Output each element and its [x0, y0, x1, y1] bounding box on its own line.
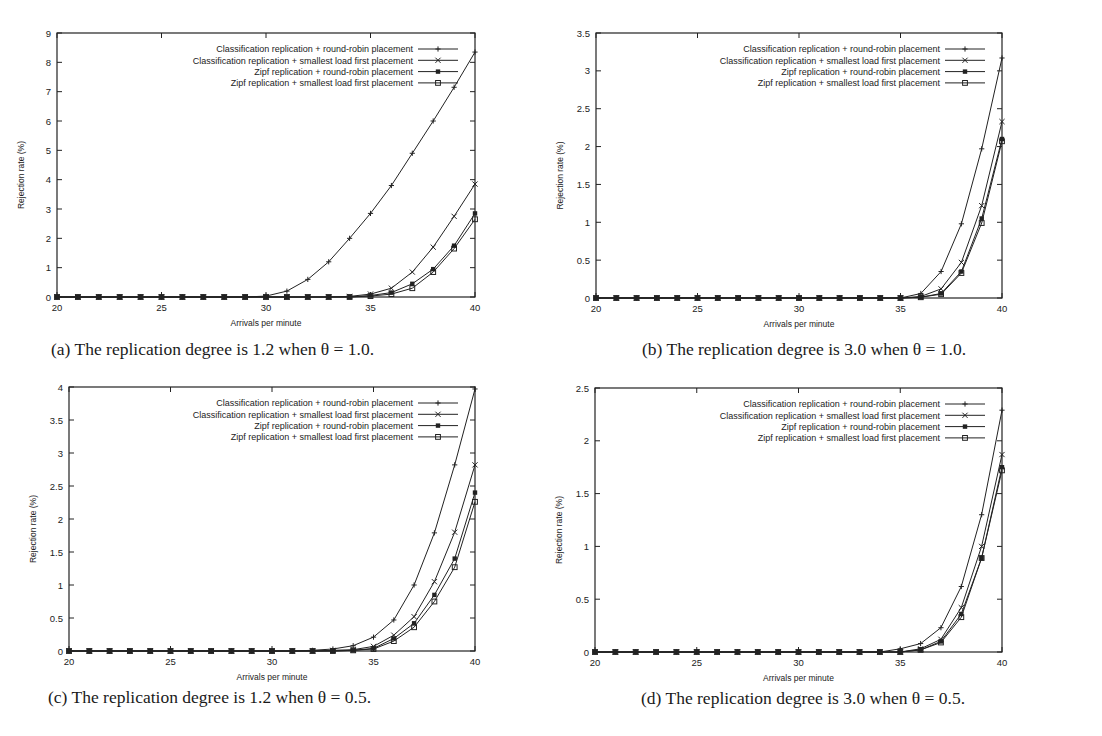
x-tick-label: 25 — [156, 302, 167, 313]
legend-label: Zipf replication + smallest load first p… — [758, 433, 941, 443]
legend-label: Zipf replication + round-robin placement — [254, 67, 413, 77]
y-tick-label: 1 — [584, 541, 589, 552]
y-tick-label: 1.5 — [577, 179, 590, 190]
y-tick-label: 8 — [46, 57, 51, 68]
y-tick-label: 3.5 — [577, 28, 590, 39]
y-axis-label: Rejection rate (%) — [16, 141, 26, 209]
series-line — [67, 499, 478, 653]
series-line — [593, 119, 1004, 301]
y-axis-label: Rejection rate (%) — [28, 495, 38, 563]
y-tick-label: 0 — [58, 646, 63, 657]
x-tick-label: 35 — [895, 303, 906, 314]
series-line — [67, 490, 477, 653]
x-tick-label: 30 — [267, 656, 278, 667]
legend-label: Classification replication + round-robin… — [743, 44, 940, 54]
series-line — [594, 139, 1005, 301]
y-tick-label: 2 — [585, 141, 590, 152]
legend-label: Classification replication + round-robin… — [216, 44, 413, 54]
y-tick-label: 1 — [46, 262, 51, 273]
x-tick-label: 40 — [997, 303, 1008, 314]
chart-panel-b: 00.511.522.533.52025303540Arrivals per m… — [551, 0, 1102, 360]
legend-label: Zipf replication + smallest load first p… — [231, 432, 414, 442]
y-tick-label: 1 — [585, 217, 590, 228]
x-axis-label: Arrivals per minute — [231, 318, 302, 328]
x-tick-label: 20 — [590, 657, 601, 668]
x-tick-label: 20 — [64, 656, 75, 667]
y-tick-label: 9 — [46, 28, 51, 39]
x-axis-label: Arrivals per minute — [763, 673, 834, 683]
y-tick-label: 1.5 — [576, 488, 589, 499]
x-tick-label: 25 — [692, 303, 703, 314]
legend-label: Zipf replication + smallest load first p… — [758, 78, 941, 88]
legend-label: Zipf replication + round-robin placement — [781, 67, 940, 77]
x-axis-label: Arrivals per minute — [764, 319, 835, 329]
series-line — [593, 465, 1004, 654]
y-tick-label: 4 — [58, 382, 63, 393]
chart-c-caption: (c) The replication degree is 1.2 when θ… — [48, 687, 371, 708]
chart-panel-c: 00.511.522.533.542025303540Arrivals per … — [0, 360, 551, 728]
cut-off-figure-caption — [0, 728, 1102, 736]
series-line — [594, 137, 1004, 300]
legend-label: Zipf replication + smallest load first p… — [231, 78, 414, 88]
legend-label: Classification replication + smallest lo… — [193, 56, 414, 66]
series-line — [593, 468, 1005, 654]
x-tick-label: 35 — [365, 302, 376, 313]
x-tick-label: 25 — [165, 656, 176, 667]
x-tick-label: 35 — [368, 656, 379, 667]
series-line — [593, 55, 1004, 300]
y-tick-label: 0 — [584, 647, 589, 658]
y-axis-label: Rejection rate (%) — [555, 141, 565, 209]
chart-legend: Classification replication + round-robin… — [720, 44, 985, 88]
y-tick-label: 1 — [58, 580, 63, 591]
legend-label: Classification replication + smallest lo… — [193, 410, 414, 420]
chart-legend: Classification replication + round-robin… — [193, 398, 458, 442]
y-tick-label: 3 — [58, 448, 63, 459]
x-tick-label: 40 — [470, 302, 481, 313]
y-tick-label: 0 — [46, 292, 51, 303]
chart-a-plot: 01234567892025303540Arrivals per minuteR… — [0, 0, 551, 340]
y-tick-label: 2 — [58, 514, 63, 525]
x-axis-label: Arrivals per minute — [237, 672, 308, 682]
y-tick-label: 0.5 — [577, 255, 590, 266]
y-tick-label: 2.5 — [50, 481, 63, 492]
series-line — [592, 408, 1004, 655]
y-tick-label: 1.5 — [50, 547, 63, 558]
legend-label: Classification replication + round-robin… — [743, 399, 940, 409]
y-tick-label: 2 — [46, 233, 51, 244]
series-line — [55, 217, 478, 300]
y-tick-label: 2.5 — [576, 383, 589, 394]
y-tick-label: 3 — [585, 65, 590, 76]
y-tick-label: 7 — [46, 86, 51, 97]
y-tick-label: 2.5 — [577, 103, 590, 114]
legend-label: Classification replication + round-robin… — [216, 398, 413, 408]
chart-a-caption: (a) The replication degree is 1.2 when θ… — [51, 339, 374, 360]
y-axis-label: Rejection rate (%) — [554, 496, 564, 564]
x-tick-label: 30 — [261, 302, 272, 313]
legend-label: Zipf replication + round-robin placement — [254, 421, 413, 431]
legend-label: Classification replication + smallest lo… — [720, 411, 941, 421]
y-tick-label: 0 — [585, 293, 590, 304]
y-tick-label: 0.5 — [50, 613, 63, 624]
chart-d-plot: 00.511.522.52025303540Arrivals per minut… — [551, 360, 1102, 692]
x-tick-label: 40 — [470, 656, 481, 667]
legend-label: Zipf replication + round-robin placement — [781, 422, 940, 432]
x-tick-label: 30 — [794, 303, 805, 314]
y-tick-label: 3 — [46, 204, 51, 215]
y-tick-label: 4 — [46, 174, 51, 185]
x-tick-label: 20 — [52, 302, 63, 313]
chart-legend: Classification replication + round-robin… — [193, 44, 458, 88]
x-tick-label: 20 — [591, 303, 602, 314]
chart-c-plot: 00.511.522.533.542025303540Arrivals per … — [0, 360, 551, 692]
chart-b-caption: (b) The replication degree is 3.0 when θ… — [642, 339, 966, 360]
y-tick-label: 2 — [584, 435, 589, 446]
y-tick-label: 3.5 — [50, 415, 63, 426]
x-tick-label: 35 — [895, 657, 906, 668]
y-tick-label: 0.5 — [576, 594, 589, 605]
y-tick-label: 6 — [46, 116, 51, 127]
x-tick-label: 30 — [793, 657, 804, 668]
x-tick-label: 25 — [691, 657, 702, 668]
chart-d-caption: (d) The replication degree is 3.0 when θ… — [641, 688, 965, 709]
chart-legend: Classification replication + round-robin… — [720, 399, 985, 443]
legend-label: Classification replication + smallest lo… — [720, 56, 941, 66]
chart-panel-d: 00.511.522.52025303540Arrivals per minut… — [551, 360, 1102, 728]
